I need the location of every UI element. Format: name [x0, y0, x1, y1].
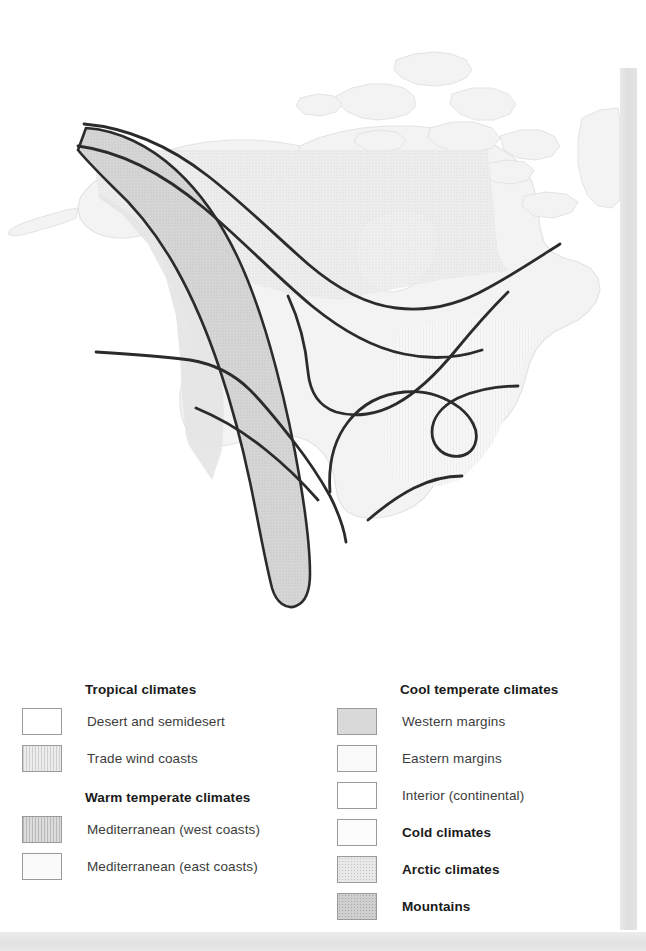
- legend-item-arctic-climates[interactable]: Arctic climates: [337, 854, 500, 884]
- legend-item-eastern-margins[interactable]: Eastern margins: [337, 743, 502, 773]
- zone-cool-temperate-east: [384, 316, 556, 486]
- legend-label-arctic-climates: Arctic climates: [402, 862, 500, 877]
- legend-label-mediterranean-west-coasts: Mediterranean (west coasts): [87, 822, 260, 837]
- map-legend: Tropical climates Desert and semidesert …: [0, 662, 620, 930]
- legend-item-mediterranean-west-coasts[interactable]: Mediterranean (west coasts): [22, 814, 260, 844]
- legend-item-trade-wind-coasts[interactable]: Trade wind coasts: [22, 743, 198, 773]
- legend-swatch-mediterranean-west-coasts: [22, 816, 62, 843]
- legend-item-cold-climates[interactable]: Cold climates: [337, 817, 491, 847]
- legend-label-cold-climates: Cold climates: [402, 825, 491, 840]
- north-america-climate-map: [0, 0, 620, 660]
- legend-swatch-arctic-climates: [337, 856, 377, 883]
- climate-map-figure: [0, 0, 620, 660]
- legend-label-trade-wind-coasts: Trade wind coasts: [87, 751, 198, 766]
- legend-label-western-margins: Western margins: [402, 714, 505, 729]
- page-edge-shadow-right: [620, 68, 637, 930]
- legend-label-interior-continental: Interior (continental): [402, 788, 524, 803]
- legend-item-mountains[interactable]: Mountains: [337, 891, 470, 921]
- legend-label-mountains: Mountains: [402, 899, 470, 914]
- aleutian-islands: [8, 208, 78, 236]
- legend-swatch-trade-wind-coasts: [22, 745, 62, 772]
- legend-swatch-eastern-margins: [337, 745, 377, 772]
- legend-header-warm-temperate-climates: Warm temperate climates: [85, 790, 250, 805]
- greenland-edge: [578, 108, 620, 208]
- legend-header-cool-temperate-climates: Cool temperate climates: [400, 682, 558, 697]
- legend-swatch-cold-climates: [337, 819, 377, 846]
- legend-item-mediterranean-east-coasts[interactable]: Mediterranean (east coasts): [22, 851, 258, 881]
- legend-swatch-interior-continental: [337, 782, 377, 809]
- legend-item-desert-and-semidesert[interactable]: Desert and semidesert: [22, 706, 225, 736]
- legend-swatch-mediterranean-east-coasts: [22, 853, 62, 880]
- legend-swatch-desert-and-semidesert: [22, 708, 62, 735]
- legend-swatch-western-margins: [337, 708, 377, 735]
- legend-label-desert-and-semidesert: Desert and semidesert: [87, 714, 225, 729]
- legend-header-tropical-climates: Tropical climates: [85, 682, 196, 697]
- legend-swatch-mountains: [337, 893, 377, 920]
- legend-label-eastern-margins: Eastern margins: [402, 751, 502, 766]
- legend-item-interior-continental[interactable]: Interior (continental): [337, 780, 524, 810]
- page-edge-shadow-bottom: [0, 932, 646, 951]
- legend-item-western-margins[interactable]: Western margins: [337, 706, 505, 736]
- legend-label-mediterranean-east-coasts: Mediterranean (east coasts): [87, 859, 258, 874]
